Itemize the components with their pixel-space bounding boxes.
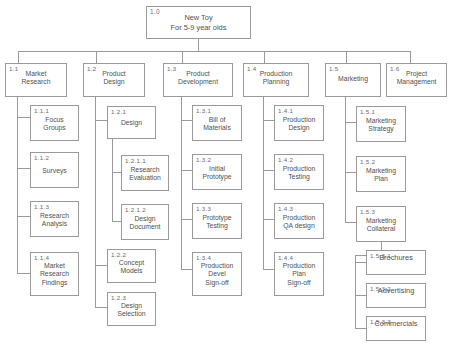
node-label: Marketing Strategy: [357, 117, 405, 134]
wbs-node-1-4[interactable]: 1.4 Production Planning: [243, 63, 309, 97]
wbs-node-1-6[interactable]: 1.6 Project Management: [386, 63, 447, 97]
wbs-node-1-2-3[interactable]: 1.2.3 Design Selection: [107, 292, 156, 326]
wbs-node-1-4-4[interactable]: 1.4.4 Production Plan Sign-off: [274, 252, 324, 296]
wbs-node-1-3-4[interactable]: 1.3.4 Production Devel Sign-off: [192, 252, 242, 296]
node-label: Market Research: [6, 70, 66, 87]
node-label: Focus Groups: [31, 116, 78, 133]
node-label: Product Design: [84, 70, 144, 87]
connector-stub-1-5-2: [345, 172, 356, 173]
wbs-node-1-3-3[interactable]: 1.3.3 Prototype Testing: [192, 203, 242, 239]
node-code: 1.2.1.2: [125, 206, 146, 213]
wbs-node-1-5-3[interactable]: 1.5.3 Marketing Collateral: [356, 206, 406, 242]
wbs-node-1-0[interactable]: 1.0 New Toy For 5-9 year olds: [146, 6, 251, 39]
connector-stub-1-4-4: [263, 269, 274, 270]
wbs-node-1-1-2[interactable]: 1.1.2 Surveys: [30, 152, 79, 188]
wbs-node-1-5-3-1[interactable]: 1.5.3.1 Brochures: [366, 250, 426, 275]
node-code: 1.2.1: [111, 108, 126, 115]
connector-drop-1-1: [18, 51, 19, 63]
connector-stub-1-2-1-1: [112, 172, 121, 173]
node-label: Commercials: [367, 320, 425, 328]
node-code: 1.2.2: [111, 251, 126, 258]
wbs-node-1-5-2[interactable]: 1.5.2 Marketing Plan: [356, 156, 406, 192]
node-label: Marketing Collateral: [357, 217, 405, 234]
connector-stub-1-1-1: [17, 117, 30, 118]
connector-stub-1-2-3: [95, 307, 107, 308]
node-code: 1.3.1: [196, 107, 211, 114]
node-code: 1.2.1.1: [125, 157, 146, 164]
wbs-node-1-2-1-1[interactable]: 1.2.1.1 Research Evaluation: [121, 155, 169, 191]
connector-stub-1-3-4: [181, 269, 192, 270]
wbs-node-1-1-3[interactable]: 1.1.3 Research Analysis: [30, 201, 79, 237]
wbs-diagram: 1.0 New Toy For 5-9 year olds 1.1 Market…: [0, 0, 451, 346]
node-label: Prototype Testing: [193, 214, 241, 231]
node-label: Bill of Materials: [193, 116, 241, 133]
node-label: Design: [108, 119, 155, 127]
connector-spine-1-3: [181, 97, 182, 269]
node-code: 1.1.2: [34, 154, 49, 161]
node-code: 1.4.4: [278, 254, 293, 261]
connector-spine-1-5-3: [355, 255, 356, 328]
node-label: Product Development: [164, 70, 232, 87]
node-code: 1.5.2: [360, 158, 375, 165]
connector-stub-1-1-2: [17, 168, 30, 169]
node-code: 1.4.3: [278, 205, 293, 212]
wbs-node-1-4-3[interactable]: 1.4.3 Production QA design: [274, 203, 324, 239]
node-label: Market Research Findings: [31, 262, 78, 287]
wbs-node-1-1-4[interactable]: 1.1.4 Market Research Findings: [30, 252, 79, 296]
wbs-node-1-5[interactable]: 1.5 Marketing: [325, 63, 381, 97]
connector-stub-1-3-1: [181, 120, 192, 121]
wbs-node-1-4-1[interactable]: 1.4.1 Production Design: [274, 105, 324, 141]
node-code: 1.5.1: [360, 108, 375, 115]
node-label: Production Devel Sign-off: [193, 262, 241, 287]
node-code: 1.5.3: [360, 208, 375, 215]
node-code: 1.1.4: [34, 254, 49, 261]
wbs-node-1-3[interactable]: 1.3 Product Development: [163, 63, 233, 97]
node-code: 1.3.4: [196, 254, 211, 261]
wbs-node-1-1-1[interactable]: 1.1.1 Focus Groups: [30, 105, 79, 141]
node-label: New Toy For 5-9 year olds: [147, 13, 250, 32]
connector-stub-1-4-3: [263, 219, 274, 220]
node-label: Marketing: [326, 75, 380, 83]
node-label: Concept Models: [108, 259, 155, 276]
node-label: Research Analysis: [31, 212, 78, 229]
node-label: Production Design: [275, 116, 323, 133]
connector-stub-1-2-2: [95, 265, 107, 266]
connector-stub-1-4-1: [263, 120, 274, 121]
connector-stub-1-2-1: [95, 120, 107, 121]
node-code: 1.4.2: [278, 156, 293, 163]
connector-drop-1-2: [96, 51, 97, 63]
connector-level2-bus: [18, 51, 410, 52]
node-label: Marketing Plan: [357, 167, 405, 184]
node-label: Design Document: [122, 215, 168, 232]
wbs-node-1-1[interactable]: 1.1 Market Research: [5, 63, 67, 97]
node-code: 1.5: [329, 65, 339, 72]
wbs-node-1-5-3-2[interactable]: 1.5.3.2 Advertising: [366, 283, 426, 308]
node-code: 1.1.1: [34, 107, 49, 114]
wbs-node-1-5-1[interactable]: 1.5.1 Marketing Strategy: [356, 106, 406, 142]
connector-spine-1-2: [95, 97, 96, 307]
connector-spine-1-5: [345, 97, 346, 222]
node-label: Design Selection: [108, 302, 155, 319]
wbs-node-1-5-3-3[interactable]: 1.5.3.3 Commercials: [366, 316, 426, 341]
wbs-node-1-2[interactable]: 1.2 Product Design: [83, 63, 145, 97]
wbs-node-1-4-2[interactable]: 1.4.2 Production Testing: [274, 154, 324, 190]
node-label: Production QA design: [275, 214, 323, 231]
node-label: Production Planning: [244, 70, 308, 87]
wbs-node-1-2-2[interactable]: 1.2.2 Concept Models: [107, 249, 156, 283]
connector-stub-1-5-3-2: [355, 295, 366, 296]
node-label: Production Testing: [275, 165, 323, 182]
connector-stub-1-2-1-2: [112, 221, 121, 222]
node-label: Advertising: [367, 287, 425, 295]
wbs-node-1-3-2[interactable]: 1.3.2 Initial Prototype: [192, 154, 242, 190]
wbs-node-1-2-1[interactable]: 1.2.1 Design: [107, 106, 156, 139]
node-code: 1.2.3: [111, 294, 126, 301]
connector-spine-1-4: [263, 97, 264, 269]
wbs-node-1-2-1-2[interactable]: 1.2.1.2 Design Document: [121, 204, 169, 240]
wbs-node-1-3-1[interactable]: 1.3.1 Bill of Materials: [192, 105, 242, 141]
connector-drop-1-5: [346, 51, 347, 63]
node-code: 1.3.3: [196, 205, 211, 212]
node-label: Brochures: [367, 254, 425, 262]
node-label: Production Plan Sign-off: [275, 262, 323, 287]
connector-stub-1-5-3: [345, 222, 356, 223]
connector-stub-1-4-2: [263, 170, 274, 171]
